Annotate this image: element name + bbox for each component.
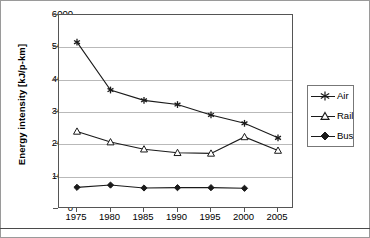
x-tick-label: 2005: [257, 211, 297, 222]
triangle-icon: [319, 110, 331, 122]
legend-item-rail: Rail: [308, 107, 353, 127]
filled-diamond-marker: [174, 185, 180, 191]
y-axis-title: Energy intensity [kJ/p-km]: [16, 15, 27, 195]
y-tick-mark: [53, 208, 58, 209]
series-line-air: [77, 42, 278, 138]
diamond-icon: [319, 130, 331, 142]
filled-diamond-marker: [107, 182, 113, 188]
filled-diamond-marker: [241, 185, 247, 191]
asterisk-marker: [275, 134, 281, 141]
open-triangle-marker: [275, 147, 282, 153]
open-triangle-marker: [241, 133, 248, 139]
chart-figure: Energy intensity [kJ/p-km] 0100020003000…: [0, 0, 370, 238]
series-layer: [59, 15, 294, 209]
chart-legend: Air Rail Bus: [307, 85, 354, 147]
plot-area: [58, 14, 293, 208]
bottom-divider: [0, 228, 370, 229]
legend-label-rail: Rail: [337, 110, 353, 122]
legend-label-bus: Bus: [337, 130, 353, 142]
asterisk-icon: [319, 90, 331, 102]
legend-item-air: Air: [308, 87, 353, 107]
filled-diamond-marker: [208, 185, 214, 191]
legend-label-air: Air: [337, 90, 349, 102]
filled-diamond-marker: [74, 184, 80, 190]
filled-diamond-marker: [141, 185, 147, 191]
series-line-bus: [77, 185, 245, 188]
legend-item-bus: Bus: [308, 127, 353, 147]
open-triangle-marker: [74, 128, 81, 134]
